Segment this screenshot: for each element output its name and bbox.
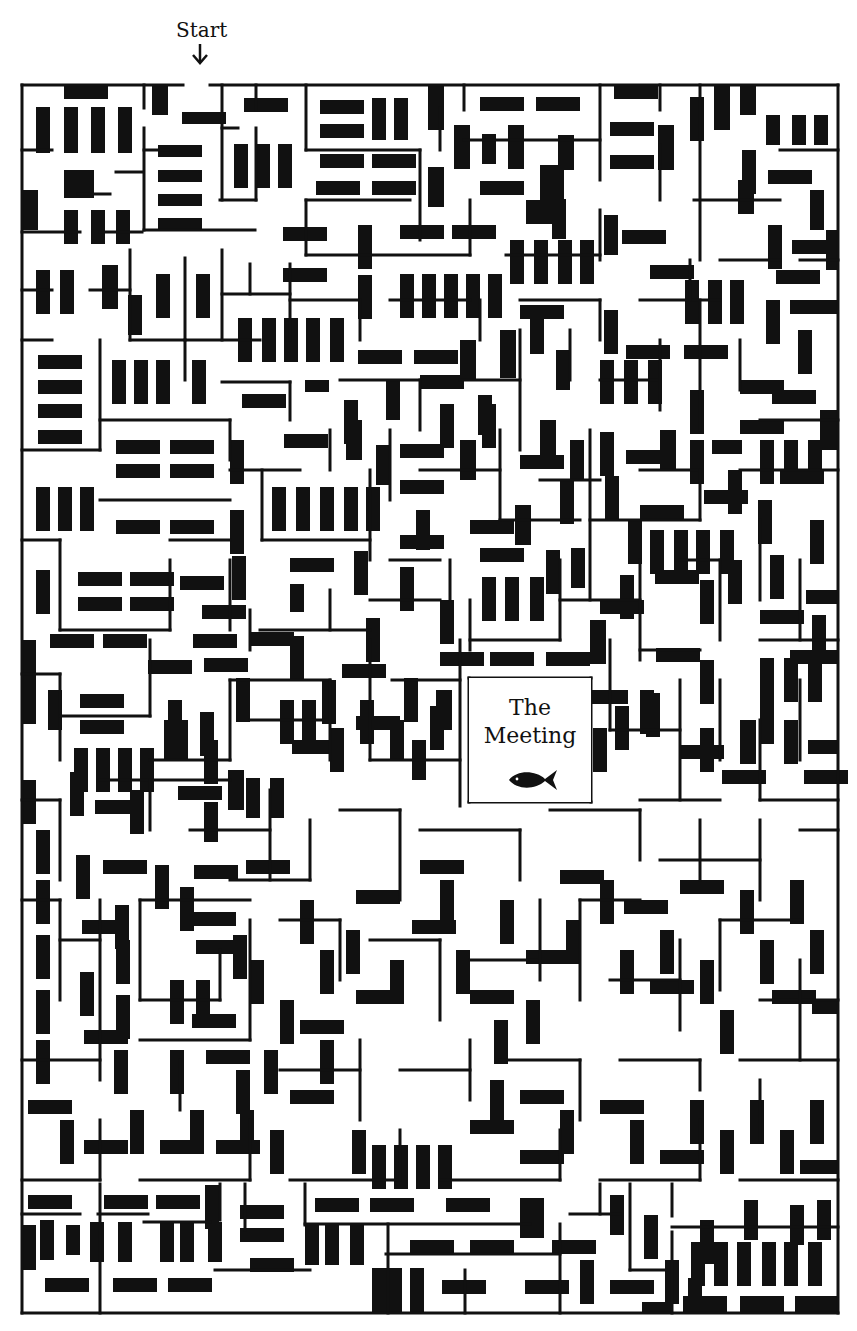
maze-block — [642, 1302, 672, 1313]
maze-block — [320, 100, 364, 114]
maze-block — [36, 830, 50, 874]
maze-block — [302, 700, 316, 744]
maze-block — [372, 181, 416, 195]
maze-block — [256, 144, 270, 188]
maze-block — [708, 280, 722, 324]
maze-block — [556, 350, 570, 390]
maze-block — [520, 1198, 544, 1238]
maze-block — [296, 487, 310, 531]
maze-block — [300, 1020, 344, 1034]
maze-block — [540, 420, 556, 460]
maze-block — [112, 360, 126, 404]
maze-block — [116, 210, 130, 244]
maze-block — [762, 1242, 776, 1286]
maze-block — [204, 740, 218, 784]
maze-block — [240, 1205, 284, 1219]
maze-block — [155, 865, 169, 909]
maze-block — [580, 1260, 594, 1304]
maze-block — [316, 181, 360, 195]
maze-block — [400, 225, 444, 239]
maze-block — [700, 728, 714, 772]
maze-block — [808, 740, 838, 754]
maze-block — [240, 1228, 284, 1242]
maze-block — [130, 1110, 144, 1154]
maze-block — [50, 634, 94, 648]
maze-block — [305, 1225, 319, 1265]
maze-block — [290, 558, 334, 572]
maze-block — [452, 225, 496, 239]
maze-block — [170, 520, 214, 534]
maze-block — [480, 181, 524, 195]
maze-block — [330, 728, 344, 772]
maze-block — [284, 434, 328, 448]
maze-block — [776, 270, 820, 284]
maze-block — [38, 430, 82, 444]
maze-block — [22, 1225, 36, 1270]
maze-block — [180, 576, 224, 590]
maze-block — [804, 770, 848, 784]
maze-block — [790, 650, 838, 664]
maze-block — [508, 125, 524, 169]
maze-block — [478, 395, 492, 435]
maze-block — [546, 550, 560, 594]
maze-block — [170, 440, 214, 454]
maze-block — [525, 1280, 569, 1294]
maze-block — [728, 470, 742, 514]
maze-block — [630, 1120, 644, 1164]
maze-block — [530, 310, 544, 354]
maze-block — [80, 487, 94, 531]
start-label: Start — [176, 18, 224, 42]
maze-block — [156, 360, 170, 404]
maze-block — [650, 265, 694, 279]
maze-block — [60, 270, 74, 314]
maze-block — [812, 1000, 838, 1014]
maze-block — [278, 144, 292, 188]
maze-block — [460, 340, 476, 380]
maze-block — [520, 1150, 564, 1164]
maze-block — [660, 1150, 704, 1164]
maze-block — [490, 1080, 504, 1124]
maze-block — [456, 950, 470, 994]
maze-block — [390, 720, 404, 760]
maze-block — [400, 480, 444, 494]
maze-block — [82, 920, 126, 934]
maze-block — [766, 300, 780, 344]
maze-block — [784, 720, 798, 764]
maze-block — [354, 551, 368, 595]
maze-block — [480, 548, 524, 562]
maze-block — [650, 980, 694, 994]
maze-block — [76, 855, 90, 899]
maze-block — [130, 597, 174, 611]
maze-block — [36, 1040, 50, 1084]
maze-block — [22, 190, 38, 230]
maze-block — [236, 1070, 250, 1114]
maze-block — [494, 1020, 508, 1064]
maze-block — [500, 900, 514, 944]
maze-block — [22, 780, 36, 824]
maze-block — [600, 432, 614, 476]
maze-block — [620, 575, 634, 619]
maze-block — [680, 880, 724, 894]
maze-block — [103, 634, 147, 648]
maze-block — [272, 487, 286, 531]
maze-block — [270, 1130, 284, 1174]
goal-title-line2: Meeting — [469, 722, 591, 750]
maze-block — [750, 1100, 764, 1144]
maze-block — [440, 652, 484, 666]
maze-block — [158, 218, 202, 230]
maze-block — [428, 85, 444, 130]
maze-block — [196, 274, 210, 318]
maze-block — [580, 240, 594, 284]
maze-block — [280, 700, 294, 744]
maze-block — [116, 940, 130, 984]
maze-block — [810, 930, 824, 974]
maze-block — [160, 1222, 174, 1262]
maze-block — [800, 1160, 838, 1174]
maze-block — [113, 1278, 157, 1292]
maze-block — [232, 556, 246, 600]
maze-block — [366, 487, 380, 531]
maze-block — [193, 634, 237, 648]
maze-block — [342, 664, 386, 678]
maze-block — [683, 1296, 727, 1313]
maze-block — [64, 210, 78, 244]
